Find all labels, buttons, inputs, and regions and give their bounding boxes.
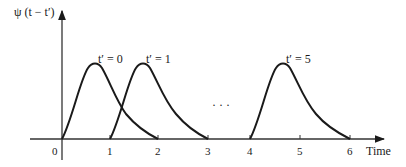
tick-label-0: 0 [52, 145, 58, 157]
tick-label-4: 4 [247, 145, 253, 157]
curve-label-t0: t′ = 0 [98, 52, 123, 66]
ellipsis: · · · [212, 98, 230, 112]
tick-label-2: 2 [155, 145, 161, 157]
x-axis-label: Time [366, 144, 391, 158]
tick-label-6: 6 [347, 145, 353, 157]
curve-t1 [110, 64, 208, 140]
curve-t0 [62, 64, 158, 140]
tick-label-3: 3 [205, 145, 211, 157]
curve-t5 [250, 64, 350, 140]
tick-label-1: 1 [107, 145, 113, 157]
impulse-response-chart: ψ (t − t′) t′ = 0 t′ = 1 t′ = 5 · · · 0 … [0, 0, 406, 167]
y-axis-label: ψ (t − t′) [14, 5, 55, 19]
curve-label-t5: t′ = 5 [286, 52, 311, 66]
curve-label-t1: t′ = 1 [146, 52, 171, 66]
tick-label-5: 5 [297, 145, 303, 157]
